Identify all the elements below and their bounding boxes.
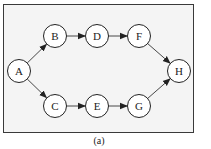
node-label: E: [94, 100, 101, 112]
node-label: H: [175, 65, 183, 77]
node-label: D: [93, 30, 101, 42]
node-G: G: [128, 95, 151, 118]
node-label: A: [15, 65, 23, 77]
edge-A-B: [27, 44, 46, 63]
directed-graph: ABDFHCEG: [0, 0, 211, 149]
node-label: C: [51, 100, 58, 112]
node-label: B: [51, 30, 58, 42]
figure-caption: (a): [0, 135, 198, 146]
node-A: A: [8, 60, 31, 83]
node-B: B: [44, 25, 67, 48]
edge-F-H: [148, 44, 170, 64]
edge-A-C: [27, 79, 46, 98]
node-F: F: [128, 25, 151, 48]
node-label: F: [136, 30, 142, 42]
nodes: ABDFHCEG: [8, 25, 191, 118]
node-C: C: [44, 95, 67, 118]
node-E: E: [86, 95, 109, 118]
edge-G-H: [148, 79, 170, 99]
node-label: G: [135, 100, 143, 112]
node-D: D: [86, 25, 109, 48]
node-H: H: [168, 60, 191, 83]
